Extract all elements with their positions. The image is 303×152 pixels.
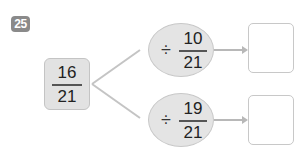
problem-number-badge: 25 bbox=[11, 16, 30, 32]
operation-ellipse-bottom: ÷ 19 21 bbox=[148, 93, 214, 147]
divisor-fraction: 19 21 bbox=[179, 100, 207, 142]
answer-box-bottom[interactable] bbox=[248, 95, 294, 145]
divide-icon: ÷ bbox=[161, 110, 171, 131]
fraction-bar bbox=[179, 50, 207, 52]
numerator: 10 bbox=[184, 30, 203, 48]
divisor-fraction: 10 21 bbox=[179, 30, 207, 72]
fraction-bar bbox=[179, 120, 207, 122]
divide-icon: ÷ bbox=[161, 40, 171, 61]
denominator: 21 bbox=[58, 88, 77, 106]
source-fraction-box: 16 21 bbox=[44, 58, 90, 110]
operation-ellipse-top: ÷ 10 21 bbox=[148, 23, 214, 77]
fraction-bar bbox=[52, 84, 82, 86]
denominator: 21 bbox=[184, 54, 203, 72]
numerator: 19 bbox=[184, 100, 203, 118]
answer-box-top[interactable] bbox=[248, 23, 294, 73]
denominator: 21 bbox=[184, 124, 203, 142]
source-fraction: 16 21 bbox=[45, 64, 89, 106]
numerator: 16 bbox=[58, 64, 77, 82]
